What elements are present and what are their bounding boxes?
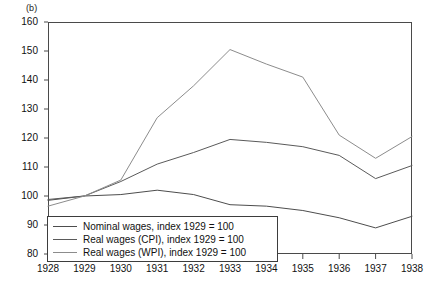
y-axis-tick-label: 140 <box>12 75 38 85</box>
legend-line-swatch <box>52 235 78 244</box>
legend-line-swatch <box>52 222 78 231</box>
legend-item: Real wages (WPI), index 1929 = 100 <box>52 246 273 259</box>
x-axis-tick-label: 1938 <box>392 264 428 274</box>
y-axis-tick-label: 100 <box>12 191 38 201</box>
x-axis-tick-label: 1932 <box>174 264 214 274</box>
chart-legend: Nominal wages, index 1929 = 100Real wage… <box>47 216 278 262</box>
data-series-layer <box>48 50 412 228</box>
x-axis-tick-label: 1933 <box>210 264 250 274</box>
legend-label: Real wages (CPI), index 1929 = 100 <box>83 234 244 246</box>
x-axis-tick-label: 1937 <box>356 264 396 274</box>
x-axis-tick-label: 1929 <box>64 264 104 274</box>
x-axis-tick-label: 1928 <box>28 264 68 274</box>
x-axis-tick-label: 1934 <box>246 264 286 274</box>
y-axis-tick-label: 80 <box>12 249 38 259</box>
legend-item: Real wages (CPI), index 1929 = 100 <box>52 233 273 246</box>
y-axis-tick-label: 160 <box>12 17 38 27</box>
y-axis-tick-label: 150 <box>12 46 38 56</box>
x-axis-tick-label: 1931 <box>137 264 177 274</box>
x-axis-tick-label: 1935 <box>283 264 323 274</box>
y-axis-tick-label: 110 <box>12 162 38 172</box>
legend-label: Nominal wages, index 1929 = 100 <box>83 221 234 233</box>
legend-line-swatch <box>52 248 78 257</box>
y-axis-tick-label: 120 <box>12 133 38 143</box>
series-line-3 <box>48 50 412 207</box>
x-axis-tick-label: 1936 <box>319 264 359 274</box>
legend-item: Nominal wages, index 1929 = 100 <box>52 220 273 233</box>
y-axis-tick-label: 130 <box>12 104 38 114</box>
y-axis-tick-label: 90 <box>12 220 38 230</box>
series-line-2 <box>48 139 412 199</box>
legend-label: Real wages (WPI), index 1929 = 100 <box>83 247 246 259</box>
x-axis-tick-label: 1930 <box>101 264 141 274</box>
